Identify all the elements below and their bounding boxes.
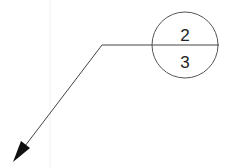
balloon-top-value: 2 — [180, 26, 189, 45]
balloon-bottom-value: 3 — [180, 53, 189, 72]
leader-line — [25, 45, 219, 146]
arrowhead-icon — [13, 141, 30, 162]
diagram-svg: 2 3 — [0, 0, 231, 168]
leader-balloon-diagram: 2 3 — [0, 0, 231, 168]
